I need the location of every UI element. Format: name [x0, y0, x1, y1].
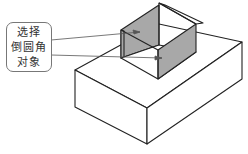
upper-left-end — [121, 30, 124, 59]
upper-back-top — [159, 3, 196, 24]
callout-line-3: 对象 — [17, 55, 41, 70]
callout-label: 选择 倒圆角 对象 — [6, 22, 52, 72]
callout-line-1: 选择 — [17, 25, 41, 40]
callout-line-2: 倒圆角 — [11, 40, 47, 55]
